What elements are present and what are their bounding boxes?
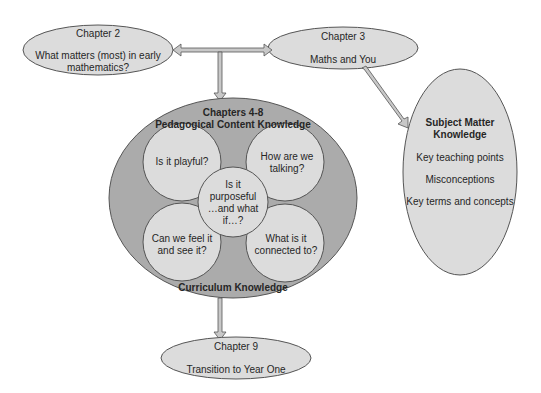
smk-item: Misconceptions	[405, 174, 515, 186]
circle-purposeful-label: Is it purposeful …and what if…?	[206, 179, 260, 227]
circle-talking-label: How are we talking?	[256, 151, 318, 175]
pck-title: Chapters 4-8	[143, 107, 323, 119]
down-arrow-icon	[214, 298, 226, 340]
chapter3-subtitle: Maths and You	[268, 54, 418, 66]
chapter9-title: Chapter 9	[161, 341, 311, 353]
chapter2-title: Chapter 2	[23, 28, 173, 40]
smk-title: Subject Matter Knowledge	[415, 117, 505, 141]
double-arrow-icon	[173, 44, 272, 56]
chapter2-subtitle: What matters (most) in early mathematics…	[33, 50, 163, 74]
down-arrow-icon	[214, 52, 226, 101]
smk-item: Key terms and concepts	[400, 196, 520, 208]
pck-footer: Curriculum Knowledge	[143, 282, 323, 294]
circle-feel-label: Can we feel it and see it?	[150, 233, 214, 257]
circle-connected-label: What is it connected to?	[244, 233, 328, 257]
diagonal-arrow-icon	[362, 66, 408, 128]
pck-subtitle: Pedagogical Content Knowledge	[133, 119, 333, 131]
smk-node	[403, 69, 517, 275]
chapter3-title: Chapter 3	[268, 31, 418, 43]
circle-playful-label: Is it playful?	[148, 156, 216, 168]
smk-item: Key teaching points	[405, 152, 515, 164]
chapter9-subtitle: Transition to Year One	[161, 364, 311, 376]
